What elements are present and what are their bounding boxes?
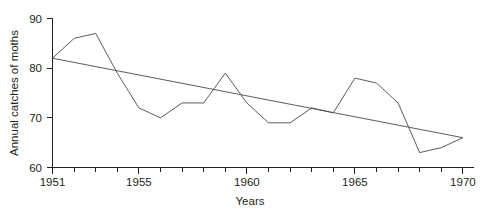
x-tick-label-1955: 1955 (126, 176, 152, 188)
trend-line (53, 58, 463, 137)
y-tick-label-90: 90 (29, 13, 42, 25)
x-tick-label-1960: 1960 (234, 176, 260, 188)
line-chart-figure: 90 80 70 60 Annual catches of moths (0, 0, 482, 209)
x-axis-title: Years (236, 195, 265, 207)
y-tick-label-80: 80 (29, 62, 42, 74)
x-tick-label-1965: 1965 (342, 176, 368, 188)
x-tick-label-1951: 1951 (40, 176, 66, 188)
y-axis-title: Annual catches of moths (8, 30, 20, 156)
x-tick-group (53, 168, 463, 174)
data-series-line (53, 33, 463, 152)
x-tick-label-1970: 1970 (450, 176, 476, 188)
chart-canvas: 90 80 70 60 Annual catches of moths (0, 0, 482, 209)
y-tick-label-70: 70 (29, 112, 42, 124)
y-tick-label-60: 60 (29, 162, 42, 174)
